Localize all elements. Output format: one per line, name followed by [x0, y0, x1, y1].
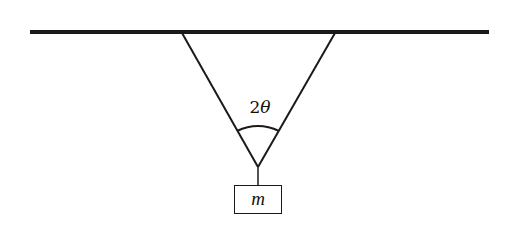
angle-arc — [237, 126, 279, 131]
mass-block: m — [234, 185, 282, 214]
angle-label: 2θ — [240, 97, 280, 117]
angle-coefficient: 2 — [249, 97, 260, 117]
angle-theta-symbol: θ — [260, 97, 270, 117]
mass-label: m — [251, 189, 265, 208]
